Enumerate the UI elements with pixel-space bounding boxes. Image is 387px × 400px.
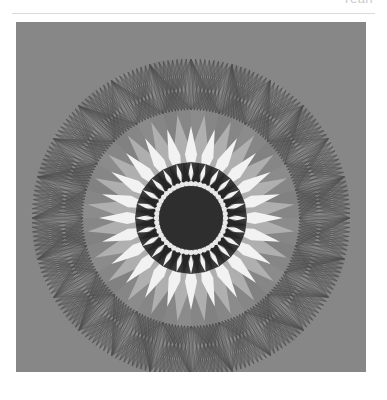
figure-panel xyxy=(16,22,366,372)
header-strip: Yeah xyxy=(0,0,387,7)
mandala-figure xyxy=(16,22,366,372)
horizontal-rule-divider xyxy=(12,13,375,14)
clipped-header-text: Yeah xyxy=(342,0,373,6)
document-page: Yeah xyxy=(0,0,387,400)
